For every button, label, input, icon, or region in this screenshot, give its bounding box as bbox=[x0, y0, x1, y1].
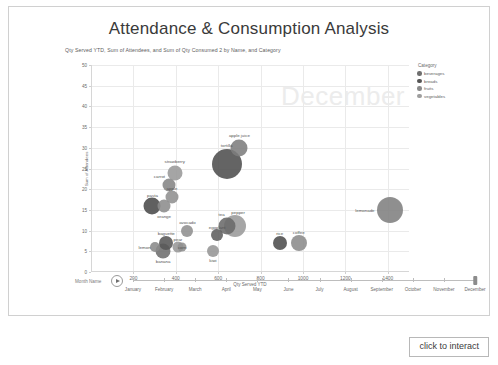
visual-subtitle: Qty Served YTD, Sum of Attendees, and Su… bbox=[65, 47, 281, 53]
gridline-horizontal bbox=[91, 65, 409, 66]
bubble-carrot[interactable] bbox=[163, 179, 176, 192]
x-tick-mark bbox=[345, 272, 346, 274]
legend-swatch-icon bbox=[417, 79, 422, 84]
legend-item-beverages[interactable]: beverages bbox=[417, 71, 487, 76]
bubble-label-carrot: carrot bbox=[154, 174, 165, 179]
gridline-horizontal bbox=[91, 86, 409, 87]
legend-item-vegetables[interactable]: vegetables bbox=[417, 94, 487, 99]
play-axis-month-May[interactable]: May bbox=[253, 287, 262, 292]
play-axis-tick bbox=[413, 278, 414, 282]
legend-title: Category bbox=[417, 63, 487, 68]
scatter-chart[interactable]: apple juicetortillastrawberrycarrotapple… bbox=[91, 65, 409, 272]
play-axis-tick bbox=[444, 278, 445, 282]
legend-item-breads[interactable]: breads bbox=[417, 79, 487, 84]
play-axis-month-August[interactable]: August bbox=[343, 287, 357, 292]
plot-area[interactable]: apple juicetortillastrawberrycarrotapple… bbox=[91, 65, 409, 272]
play-axis-slicer[interactable]: Month Name JanuaryFebruaryMarchAprilMayJ… bbox=[23, 277, 479, 303]
play-axis-tick bbox=[382, 278, 383, 282]
x-tick-mark bbox=[303, 272, 304, 274]
bubble-label-apple-juice: apple juice bbox=[229, 132, 250, 137]
play-axis-tick bbox=[195, 278, 196, 282]
legend: Category beveragesbreadsfruitsvegetables bbox=[417, 63, 487, 101]
y-tick-mark bbox=[89, 106, 91, 107]
x-tick-mark bbox=[388, 272, 389, 274]
y-axis-line bbox=[91, 65, 92, 272]
legend-swatch-icon bbox=[417, 94, 422, 99]
bubble-apple-juice[interactable] bbox=[231, 139, 248, 156]
bubble-label-orange: orange bbox=[157, 213, 171, 218]
bubble-coffee[interactable] bbox=[291, 235, 307, 251]
play-icon[interactable] bbox=[111, 275, 123, 287]
bubble-corn[interactable] bbox=[178, 243, 187, 252]
y-tick-mark bbox=[89, 189, 91, 190]
y-tick-label: 40 bbox=[82, 104, 87, 109]
play-axis-month-January[interactable]: January bbox=[125, 287, 141, 292]
play-axis-tick bbox=[257, 278, 258, 282]
legend-swatch-icon bbox=[417, 71, 422, 76]
bubble-label-banana: banana bbox=[156, 259, 171, 264]
gridline-horizontal bbox=[91, 169, 409, 170]
play-axis-track[interactable]: JanuaryFebruaryMarchAprilMayJuneJulyAugu… bbox=[133, 280, 475, 281]
play-axis-thumb[interactable] bbox=[473, 276, 477, 285]
gridline-horizontal bbox=[91, 148, 409, 149]
gridline-horizontal bbox=[91, 127, 409, 128]
report-canvas: Attendance & Consumption Analysis Qty Se… bbox=[8, 6, 490, 316]
gridline-horizontal bbox=[91, 251, 409, 252]
play-axis-tick bbox=[320, 278, 321, 282]
y-tick-mark bbox=[89, 86, 91, 87]
gridline-horizontal bbox=[91, 106, 409, 107]
legend-item-label: beverages bbox=[424, 71, 445, 76]
play-axis-month-September[interactable]: September bbox=[370, 287, 392, 292]
gridline-horizontal bbox=[91, 189, 409, 190]
play-axis-month-April[interactable]: April bbox=[222, 287, 231, 292]
play-axis-month-December[interactable]: December bbox=[464, 287, 485, 292]
play-axis-month-February[interactable]: February bbox=[155, 287, 173, 292]
legend-item-label: fruits bbox=[424, 86, 434, 91]
x-tick-mark bbox=[176, 272, 177, 274]
play-axis-tick bbox=[133, 278, 134, 282]
x-tick-mark bbox=[261, 272, 262, 274]
y-tick-mark bbox=[89, 127, 91, 128]
play-axis-tick bbox=[288, 278, 289, 282]
play-axis-tick bbox=[226, 278, 227, 282]
y-tick-mark bbox=[89, 272, 91, 273]
y-tick-mark bbox=[89, 65, 91, 66]
play-axis-month-July[interactable]: July bbox=[315, 287, 323, 292]
x-tick-mark bbox=[133, 272, 134, 274]
bubble-baguette[interactable] bbox=[159, 236, 173, 250]
y-tick-label: 15 bbox=[82, 207, 87, 212]
play-axis-month-October[interactable]: October bbox=[405, 287, 421, 292]
page-title: Attendance & Consumption Analysis bbox=[9, 19, 489, 39]
click-to-interact-button[interactable]: click to interact bbox=[409, 337, 489, 357]
bubble-kiwi[interactable] bbox=[207, 245, 219, 257]
legend-item-label: vegetables bbox=[424, 94, 445, 99]
y-tick-label: 5 bbox=[84, 249, 87, 254]
play-axis-tick bbox=[164, 278, 165, 282]
bubble-avocado[interactable] bbox=[181, 225, 193, 237]
gridline-horizontal bbox=[91, 231, 409, 232]
legend-items: beveragesbreadsfruitsvegetables bbox=[417, 71, 487, 99]
bubble-rice[interactable] bbox=[273, 236, 287, 250]
legend-swatch-icon bbox=[417, 86, 422, 91]
bubble-label-tea: tea bbox=[219, 212, 225, 217]
bubble-label-kiwi: kiwi bbox=[209, 258, 216, 263]
x-tick-mark bbox=[218, 272, 219, 274]
y-tick-label: 0 bbox=[84, 270, 87, 275]
play-axis-month-November[interactable]: November bbox=[433, 287, 454, 292]
play-triangle bbox=[116, 279, 120, 283]
legend-item-fruits[interactable]: fruits bbox=[417, 86, 487, 91]
y-tick-label: 45 bbox=[82, 83, 87, 88]
bubble-label-avocado: avocado bbox=[179, 219, 196, 224]
bubble-lemon[interactable] bbox=[150, 242, 160, 252]
bubble-eggplant[interactable] bbox=[211, 229, 223, 241]
y-tick-label: 35 bbox=[82, 125, 87, 130]
bubble-lemonade[interactable] bbox=[377, 197, 403, 223]
play-axis-month-June[interactable]: June bbox=[283, 287, 293, 292]
play-axis-field-label: Month Name bbox=[75, 279, 101, 284]
y-tick-label: 50 bbox=[82, 63, 87, 68]
play-axis-month-March[interactable]: March bbox=[189, 287, 202, 292]
bubble-orange[interactable] bbox=[158, 199, 171, 212]
y-tick-label: 20 bbox=[82, 187, 87, 192]
y-tick-label: 10 bbox=[82, 228, 87, 233]
y-tick-mark bbox=[89, 231, 91, 232]
